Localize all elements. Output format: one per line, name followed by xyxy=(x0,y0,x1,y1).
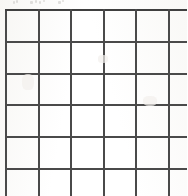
grid-cell-r5c2[interactable] xyxy=(39,137,72,169)
scan-speck-6 xyxy=(43,0,45,2)
grid-cell-r2c4[interactable] xyxy=(104,42,137,74)
grid-cell-r6c6[interactable] xyxy=(169,169,188,196)
grid-body xyxy=(6,10,187,196)
grid-cell-r6c4[interactable] xyxy=(104,169,137,196)
grid-cell-r4c4[interactable] xyxy=(104,105,137,137)
table-row xyxy=(6,10,187,42)
grid-cell-r5c1[interactable] xyxy=(6,137,39,169)
grid-cell-r1c4[interactable] xyxy=(104,10,137,42)
grid-cell-r6c2[interactable] xyxy=(39,169,72,196)
grid-cell-r2c6[interactable] xyxy=(169,42,188,74)
table-row xyxy=(6,137,187,169)
grid-cell-r2c2[interactable] xyxy=(39,42,72,74)
grid-cell-r3c5[interactable] xyxy=(136,74,169,106)
grid-cell-r4c2[interactable] xyxy=(39,105,72,137)
grid-cell-r1c3[interactable] xyxy=(71,10,104,42)
table-row xyxy=(6,74,187,106)
scan-artifacts-top xyxy=(0,0,187,8)
grid-cell-r4c5[interactable] xyxy=(136,105,169,137)
table-row xyxy=(6,105,187,137)
blank-grid[interactable] xyxy=(5,9,187,196)
grid-cell-r2c5[interactable] xyxy=(136,42,169,74)
scan-speck-4 xyxy=(35,0,37,3)
scan-speck-5 xyxy=(39,1,41,4)
grid-cell-r3c4[interactable] xyxy=(104,74,137,106)
grid-cell-r4c1[interactable] xyxy=(6,105,39,137)
grid-cell-r4c3[interactable] xyxy=(71,105,104,137)
scan-speck-8 xyxy=(62,0,64,2)
grid-cell-r2c3[interactable] xyxy=(71,42,104,74)
grid-cell-r1c6[interactable] xyxy=(169,10,188,42)
scan-speck-2 xyxy=(16,0,18,3)
table-row xyxy=(6,42,187,74)
grid-cell-r3c6[interactable] xyxy=(169,74,188,106)
grid-cell-r6c3[interactable] xyxy=(71,169,104,196)
grid-cell-r5c4[interactable] xyxy=(104,137,137,169)
scanned-page: Blank grid worksheet xyxy=(0,0,187,196)
grid-cell-r3c2[interactable] xyxy=(39,74,72,106)
scan-speck-7 xyxy=(58,1,61,4)
grid-cell-r5c6[interactable] xyxy=(169,137,188,169)
grid-cell-r3c1[interactable] xyxy=(6,74,39,106)
scan-speck-1 xyxy=(13,1,15,4)
grid-cell-r6c1[interactable] xyxy=(6,169,39,196)
grid-cell-r5c5[interactable] xyxy=(136,137,169,169)
grid-cell-r5c3[interactable] xyxy=(71,137,104,169)
grid-cell-r3c3[interactable] xyxy=(71,74,104,106)
table-row xyxy=(6,169,187,196)
grid-cell-r1c2[interactable] xyxy=(39,10,72,42)
grid-cell-r2c1[interactable] xyxy=(6,42,39,74)
scan-speck-3 xyxy=(30,1,33,4)
grid-cell-r1c5[interactable] xyxy=(136,10,169,42)
grid-cell-r4c6[interactable] xyxy=(169,105,188,137)
grid-cell-r6c5[interactable] xyxy=(136,169,169,196)
grid-cell-r1c1[interactable] xyxy=(6,10,39,42)
